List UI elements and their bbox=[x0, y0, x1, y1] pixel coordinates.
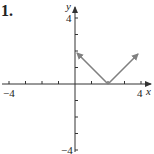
x-axis-label: x bbox=[146, 86, 151, 97]
y-axis-label: y bbox=[66, 1, 71, 12]
coordinate-plane bbox=[0, 0, 154, 154]
y-max-label: 4 bbox=[66, 13, 72, 24]
y-min-label: −4 bbox=[61, 145, 73, 154]
x-max-label: 4 bbox=[137, 88, 143, 99]
absolute-value-graph bbox=[77, 53, 138, 84]
x-min-label: −4 bbox=[3, 88, 15, 99]
